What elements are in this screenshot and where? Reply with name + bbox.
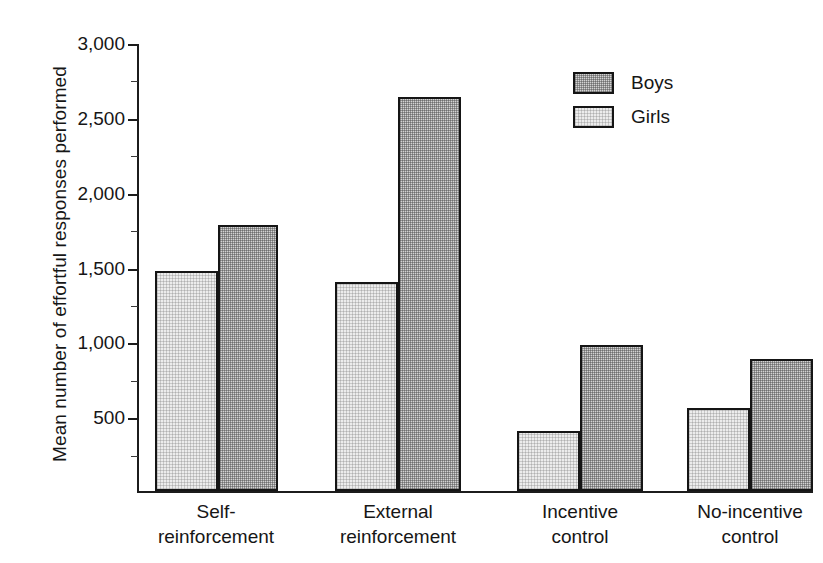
legend-label-boys: Boys [631,72,673,94]
bar-boys-incentive-control [517,431,580,491]
y-tick-3000 [128,44,139,46]
legend: Boys Girls [573,66,673,134]
y-minor-tick-250 [131,456,138,457]
legend-label-girls: Girls [631,106,670,128]
legend-item-girls: Girls [573,100,673,134]
legend-swatch-girls-icon [573,106,614,128]
x-category-line-2: reinforcement [116,524,316,549]
y-minor-tick-750 [131,381,138,382]
x-category-label-no-incentive-control: No-incentive control [650,499,823,549]
bar-boys-external-reinforcement [335,282,398,491]
x-category-label-external-reinforcement: External reinforcement [298,499,498,549]
x-category-label-self-reinforcement: Self- reinforcement [116,499,316,549]
bar-girls-incentive-control [580,345,643,491]
y-tick-1000 [128,343,139,345]
y-minor-tick-1250 [131,306,138,307]
x-category-line-1: No-incentive [650,499,823,524]
bar-girls-external-reinforcement [398,97,461,491]
y-tick-label-1000: 1,000 [33,332,125,354]
legend-swatch-boys-icon [573,72,614,94]
y-minor-tick-2250 [131,156,138,157]
y-tick-label-2000: 2,000 [33,183,125,205]
y-tick-label-3000: 3,000 [33,33,125,55]
plot-area: 3,000 2,500 2,000 1,500 1,000 500 [137,44,813,493]
y-tick-label-1500: 1,500 [33,258,125,280]
bar-chart: Mean number of effortful responses perfo… [0,0,823,563]
y-tick-label-2500: 2,500 [33,108,125,130]
x-category-line-2: reinforcement [298,524,498,549]
y-tick-1500 [128,269,139,271]
bar-girls-no-incentive-control [750,359,813,491]
y-minor-tick-2750 [131,81,138,82]
y-tick-label-500: 500 [33,407,125,429]
legend-item-boys: Boys [573,66,673,100]
bar-girls-self-reinforcement [218,225,278,491]
x-axis-line [137,491,813,493]
x-category-line-2: control [650,524,823,549]
x-category-line-1: Self- [116,499,316,524]
y-tick-2000 [128,194,139,196]
x-category-line-1: External [298,499,498,524]
y-tick-500 [128,418,139,420]
y-minor-tick-1750 [131,231,138,232]
bar-boys-no-incentive-control [687,408,750,491]
bar-boys-self-reinforcement [155,271,218,491]
y-tick-2500 [128,119,139,121]
